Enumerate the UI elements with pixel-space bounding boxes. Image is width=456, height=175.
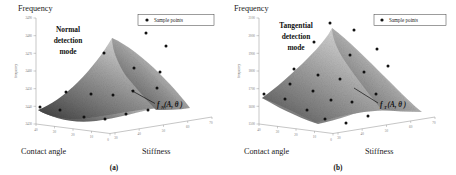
sample-point bbox=[330, 99, 333, 102]
panel-b-plot: Frequency frequency 1500 1600 1700 1800 … bbox=[228, 0, 456, 175]
sample-point bbox=[387, 65, 390, 68]
sample-point bbox=[125, 113, 128, 116]
sample-point bbox=[90, 93, 93, 96]
panel-b-sublabel: (b) bbox=[334, 164, 343, 172]
panel-a-mode-caption: Normal detection mode bbox=[54, 25, 83, 56]
panel-a-mode-line-1: Normal bbox=[56, 25, 80, 34]
panel-b-mode-line-1: Tangential bbox=[279, 21, 312, 30]
panel-b-y-tick-label: 40 bbox=[361, 132, 365, 136]
panel-b-x-tick-label: 10 bbox=[313, 135, 317, 139]
panel-b-x-tick-label: 0 bbox=[330, 138, 332, 142]
panel-a-z-tick-label: 2480 bbox=[25, 34, 32, 38]
legend-marker-icon bbox=[145, 18, 148, 21]
panel-a: Frequency frequency 2430 2440 2450 2460 … bbox=[0, 0, 228, 175]
sample-point bbox=[363, 71, 366, 74]
panel-b-z-tick-label: 1500 bbox=[248, 122, 255, 126]
sample-point bbox=[65, 91, 68, 94]
panel-b-z-tick-label: 1800 bbox=[248, 69, 255, 73]
panel-a-mode-line-2: detection bbox=[54, 36, 83, 45]
panel-b-x-tick-label: 40 bbox=[257, 128, 261, 132]
panel-a-x-tick-label: 0 bbox=[107, 138, 109, 142]
sample-point bbox=[375, 93, 378, 96]
sample-point bbox=[104, 118, 107, 121]
sample-point bbox=[351, 101, 354, 104]
figure-container: Frequency frequency 2430 2440 2450 2460 … bbox=[0, 0, 456, 175]
panel-a-legend-label: Sample points bbox=[154, 17, 183, 23]
panel-b-y-tick-label: 60 bbox=[409, 125, 413, 129]
panel-b-x-tick-label: 30 bbox=[276, 130, 280, 134]
panel-a-y-tick-label: 30 bbox=[114, 136, 118, 140]
sample-point bbox=[317, 74, 320, 77]
sample-point bbox=[39, 106, 42, 109]
panel-b-z-tick-label: 2000 bbox=[248, 34, 255, 38]
sample-point bbox=[324, 118, 327, 121]
sample-point bbox=[293, 68, 296, 71]
sample-point bbox=[165, 45, 168, 48]
sample-point bbox=[156, 87, 159, 90]
sample-point bbox=[376, 48, 379, 51]
panel-b-frequency-title: Frequency bbox=[234, 4, 269, 13]
panel-b-x-axis-title: Contact angle bbox=[244, 147, 290, 156]
panel-b-mode-line-3: mode bbox=[287, 43, 305, 52]
panel-b-z-tick-label: 1900 bbox=[248, 52, 255, 56]
sample-point bbox=[289, 83, 292, 86]
panel-b-legend-label: Sample points bbox=[389, 17, 418, 23]
legend-marker-icon bbox=[380, 18, 383, 21]
panel-a-sublabel: (a) bbox=[110, 164, 119, 172]
panel-b-legend[interactable]: Sample points bbox=[374, 15, 446, 26]
panel-b-mode-caption: Tangential detection mode bbox=[279, 21, 312, 52]
sample-point bbox=[263, 93, 266, 96]
panel-a-legend[interactable]: Sample points bbox=[138, 15, 214, 26]
panel-b-x-tick-label: 20 bbox=[294, 133, 298, 137]
panel-a-x-tick-label: 40 bbox=[34, 128, 38, 132]
panel-a-y-axis-title: Stiffness bbox=[142, 147, 171, 156]
panel-b-function-args: (A, θ ) bbox=[388, 101, 407, 109]
panel-b-surface bbox=[262, 28, 422, 124]
sample-point bbox=[132, 90, 135, 93]
panel-a-function-args: (A, θ ) bbox=[164, 101, 183, 109]
panel-a-z-tick-label: 2430 bbox=[25, 122, 32, 126]
panel-a-y-tick-label: 70 bbox=[209, 121, 213, 125]
panel-a-z-tick-label: 2440 bbox=[25, 105, 32, 109]
panel-b-mode-line-2: detection bbox=[282, 32, 311, 41]
sample-point bbox=[313, 41, 316, 44]
sample-point bbox=[147, 109, 150, 112]
panel-a-plot: Frequency frequency 2430 2440 2450 2460 … bbox=[0, 0, 228, 175]
panel-a-mode-line-3: mode bbox=[59, 47, 77, 56]
panel-a-x-tick-label: 10 bbox=[90, 135, 94, 139]
panel-a-z-tick-label: 2470 bbox=[25, 52, 32, 56]
sample-point bbox=[329, 22, 332, 25]
sample-point bbox=[339, 78, 342, 81]
panel-a-x-tick-label: 20 bbox=[71, 133, 75, 137]
panel-b-y-tick-label: 50 bbox=[385, 129, 389, 133]
panel-b-y-axis-title: Stiffness bbox=[365, 147, 394, 156]
sample-point bbox=[133, 67, 136, 70]
panel-b-z-tick-label: 1600 bbox=[248, 105, 255, 109]
sample-point bbox=[284, 98, 287, 101]
panel-a-x-axis-title: Contact angle bbox=[21, 147, 67, 156]
sample-point bbox=[145, 32, 148, 35]
sample-point bbox=[83, 116, 86, 119]
panel-a-x-tick-label: 30 bbox=[53, 130, 57, 134]
sample-point bbox=[312, 90, 315, 93]
panel-b-z-tick-label: 2100 bbox=[248, 16, 255, 20]
panel-a-z-tick-label: 2450 bbox=[25, 87, 32, 91]
sample-point bbox=[159, 71, 162, 74]
sample-point bbox=[112, 94, 115, 97]
panel-b-y-tick-label: 30 bbox=[337, 136, 341, 140]
panel-a-z-tick-label: 2460 bbox=[25, 69, 32, 73]
sample-point bbox=[345, 122, 348, 125]
panel-b-vertical-axis-label: frequency bbox=[237, 63, 241, 78]
panel-b-z-tick-label: 1700 bbox=[248, 87, 255, 91]
sample-point bbox=[306, 109, 309, 112]
panel-a-y-tick-label: 40 bbox=[138, 132, 142, 136]
panel-a-frequency-title: Frequency bbox=[18, 4, 53, 13]
panel-b-y-tick-label: 70 bbox=[432, 121, 436, 125]
sample-point bbox=[59, 109, 62, 112]
panel-b: Frequency frequency 1500 1600 1700 1800 … bbox=[228, 0, 456, 175]
sample-point bbox=[367, 115, 370, 118]
sample-point bbox=[349, 54, 352, 57]
sample-point bbox=[103, 52, 106, 55]
panel-a-y-tick-label: 50 bbox=[162, 129, 166, 133]
panel-a-y-tick-label: 60 bbox=[186, 125, 190, 129]
